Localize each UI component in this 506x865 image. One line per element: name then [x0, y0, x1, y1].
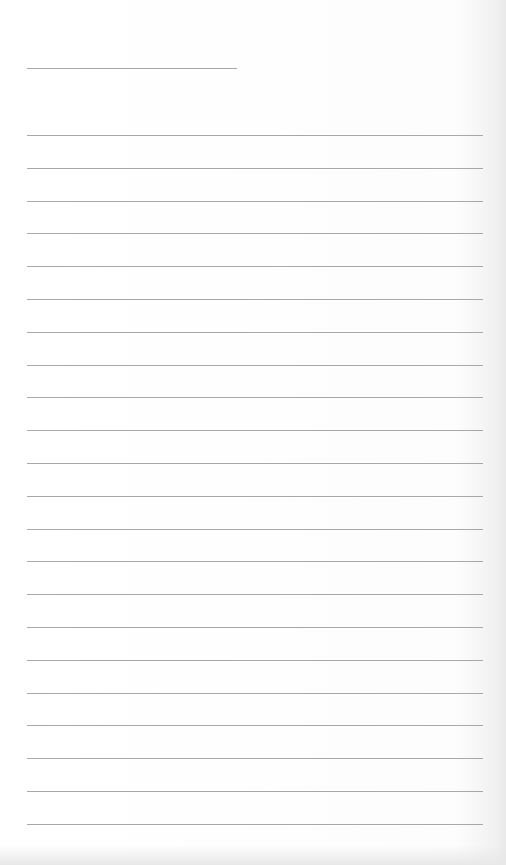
ruled-line	[27, 791, 483, 792]
ruled-line	[27, 693, 483, 694]
ruled-line	[27, 529, 483, 530]
ruled-line	[27, 397, 483, 398]
ruled-line	[27, 299, 483, 300]
page-bottom-shadow	[0, 845, 506, 865]
ruled-line	[27, 168, 483, 169]
lined-paper-page	[0, 0, 506, 865]
ruled-line	[27, 135, 483, 136]
ruled-line	[27, 430, 483, 431]
ruled-line	[27, 824, 483, 825]
ruled-line	[27, 201, 483, 202]
ruled-line	[27, 496, 483, 497]
header-name-line	[27, 68, 237, 69]
ruled-line	[27, 463, 483, 464]
ruled-line	[27, 660, 483, 661]
ruled-line	[27, 561, 483, 562]
ruled-line	[27, 627, 483, 628]
ruled-line	[27, 758, 483, 759]
ruled-line	[27, 266, 483, 267]
ruled-line	[27, 594, 483, 595]
ruled-line	[27, 233, 483, 234]
ruled-line	[27, 725, 483, 726]
ruled-line	[27, 365, 483, 366]
ruled-line	[27, 332, 483, 333]
